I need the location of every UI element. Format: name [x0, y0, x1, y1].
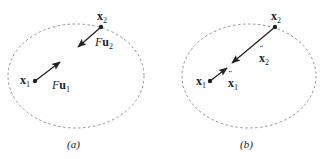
- accel-arrow-x1: [210, 68, 227, 81]
- dashed-boundary-b: [182, 24, 316, 128]
- label-x1-a: x1: [20, 73, 30, 89]
- caption-b: (b): [240, 138, 253, 151]
- caption-a: (a): [67, 138, 80, 151]
- label-Fu1: Fu1: [51, 78, 70, 94]
- dashed-boundary-a: [8, 24, 144, 128]
- label-Fu2: Fu2: [94, 35, 113, 51]
- panel-b: x1 x2 x1 ¨ x2 ¨ (b): [182, 9, 316, 151]
- label-x2-a: x2: [97, 9, 107, 25]
- label-x1-b: x1: [196, 74, 206, 90]
- diagram-canvas: x1 x2 Fu1 Fu2 (a) x1 x2 x1 ¨ x2 ¨ (b): [0, 0, 328, 159]
- panel-a: x1 x2 Fu1 Fu2 (a): [8, 9, 144, 151]
- label-x2-b: x2: [271, 9, 281, 25]
